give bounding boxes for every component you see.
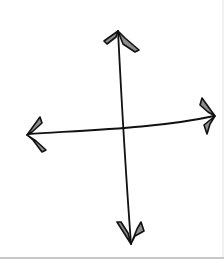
move-arrows-icon bbox=[0, 0, 224, 263]
vertical-shaft bbox=[118, 31, 131, 244]
bottom-divider bbox=[0, 257, 224, 259]
horizontal-shaft bbox=[28, 116, 214, 134]
arrow-up-icon bbox=[104, 31, 139, 52]
right-edge-shadow bbox=[222, 0, 224, 257]
four-way-arrow-illustration bbox=[0, 0, 224, 263]
